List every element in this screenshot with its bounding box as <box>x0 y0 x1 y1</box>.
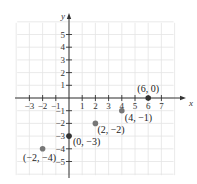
x-tick-label: −3 <box>25 101 35 111</box>
point-label: (4, −1) <box>125 112 152 124</box>
y-axis-arrow-icon <box>67 13 71 19</box>
x-tick-label: 7 <box>159 101 164 111</box>
y-tick-label: 5 <box>61 30 66 40</box>
point-label: (0, −3) <box>73 136 100 148</box>
x-tick-label: 2 <box>93 101 98 111</box>
y-tick-label: 2 <box>61 68 66 78</box>
point-label: (6, 0) <box>137 83 159 95</box>
y-tick-label: −1 <box>55 106 65 116</box>
y-tick-label: −4 <box>55 144 65 154</box>
x-tick-label: 5 <box>133 101 138 111</box>
y-tick-label: −5 <box>55 157 65 167</box>
x-axis-label: x <box>188 98 193 108</box>
point-marker-icon <box>119 108 125 114</box>
point-marker-icon <box>145 95 151 101</box>
y-tick-label: 3 <box>61 55 66 65</box>
point-marker-icon <box>40 146 46 152</box>
x-tick-label: 1 <box>80 101 85 111</box>
coordinate-plane: xy −3−2−11234567−5−4−3−2−112345 (6, 0)(4… <box>0 0 197 184</box>
y-tick-label: −3 <box>55 131 65 141</box>
y-tick-label: 4 <box>61 42 66 52</box>
y-tick-label: 1 <box>61 80 66 90</box>
y-axis-label: y <box>60 11 65 21</box>
x-tick-label: −2 <box>38 101 48 111</box>
point-marker-icon <box>66 133 72 139</box>
point-label: (−2, −4) <box>23 152 56 164</box>
x-axis-arrow-icon <box>180 96 186 100</box>
point-label: (2, −2) <box>97 124 124 136</box>
data-point: (0, −3) <box>66 133 100 148</box>
x-tick-label: 6 <box>146 101 151 111</box>
x-tick-label: 3 <box>106 101 111 111</box>
y-tick-label: −2 <box>55 118 65 128</box>
